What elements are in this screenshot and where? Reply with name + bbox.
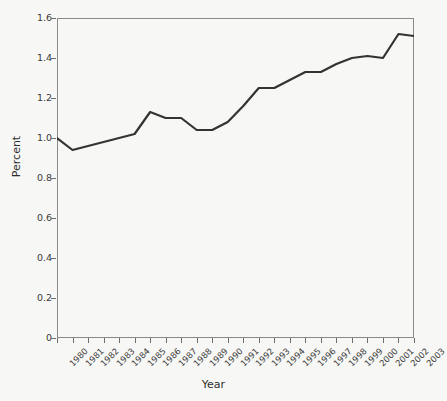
x-tick-mark [150, 338, 151, 343]
x-tick-mark [367, 338, 368, 343]
y-tick-label: 0.6 [14, 213, 52, 223]
y-tick-label: 1.2 [14, 93, 52, 103]
x-tick-mark [383, 338, 384, 343]
y-tick-label: 0.4 [14, 253, 52, 263]
x-tick-mark [181, 338, 182, 343]
series-polyline [57, 34, 414, 150]
y-tick-mark [51, 98, 56, 99]
x-tick-mark [336, 338, 337, 343]
x-tick-mark [197, 338, 198, 343]
y-tick-mark [51, 58, 56, 59]
x-tick-mark [104, 338, 105, 343]
y-tick-label: 0.2 [14, 293, 52, 303]
y-tick-mark [51, 258, 56, 259]
x-tick-mark [414, 338, 415, 343]
x-axis-title: Year [0, 378, 427, 391]
x-tick-mark [274, 338, 275, 343]
x-tick-mark [290, 338, 291, 343]
y-tick-mark [51, 338, 56, 339]
x-tick-mark [352, 338, 353, 343]
x-tick-mark [228, 338, 229, 343]
x-tick-mark [321, 338, 322, 343]
y-axis-title: Percent [10, 117, 23, 197]
x-tick-mark [166, 338, 167, 343]
x-tick-mark [73, 338, 74, 343]
y-tick-mark [51, 178, 56, 179]
y-tick-label: 1.6 [14, 13, 52, 23]
x-tick-mark [88, 338, 89, 343]
y-tick-mark [51, 18, 56, 19]
y-axis-ticks: 00.20.40.60.81.01.21.41.6 [14, 0, 52, 401]
x-tick-mark [135, 338, 136, 343]
x-tick-mark [57, 338, 58, 343]
y-tick-label: 0 [14, 333, 52, 343]
x-tick-mark [398, 338, 399, 343]
y-tick-mark [51, 218, 56, 219]
x-tick-mark [243, 338, 244, 343]
y-tick-mark [51, 138, 56, 139]
y-tick-label: 1.4 [14, 53, 52, 63]
x-tick-mark [212, 338, 213, 343]
line-series-percent [57, 18, 414, 338]
y-tick-mark [51, 298, 56, 299]
x-tick-mark [259, 338, 260, 343]
x-tick-mark [119, 338, 120, 343]
x-tick-mark [305, 338, 306, 343]
